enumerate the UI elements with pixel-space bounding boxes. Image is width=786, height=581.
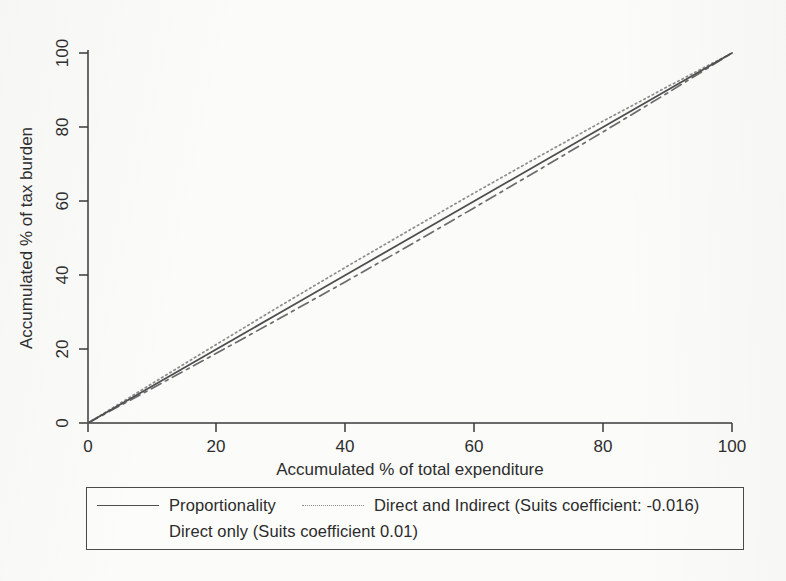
legend-entry-direct-and-indirect: Direct and Indirect (Suits coefficient: … [302, 496, 699, 515]
y-tick-label-60: 60 [53, 192, 72, 211]
y-tick-label-0: 0 [53, 418, 72, 427]
dotted-line-swatch-icon [302, 498, 364, 512]
x-tick-label-60: 60 [465, 437, 484, 456]
x-tick-label-80: 80 [594, 437, 613, 456]
dash-dot-line-swatch-icon [97, 524, 159, 538]
y-tick-label-40: 40 [53, 266, 72, 285]
x-tick-label-0: 0 [83, 437, 92, 456]
chart-legend: Proportionality Direct and Indirect (Sui… [86, 487, 744, 550]
x-tick-label-40: 40 [336, 437, 355, 456]
x-axis-title: Accumulated % of total expenditure [276, 460, 543, 479]
y-tick-label-100: 100 [53, 39, 72, 67]
y-axis-ticks [79, 53, 88, 423]
legend-entry-direct-only: Direct only (Suits coefficient 0.01) [97, 522, 418, 541]
chart-figure: 100 80 60 40 20 0 Accumulated % of tax b… [0, 0, 786, 581]
legend-label-direct-only: Direct only (Suits coefficient 0.01) [169, 522, 418, 541]
y-axis-title: Accumulated % of tax burden [17, 127, 36, 349]
x-tick-label-20: 20 [207, 437, 226, 456]
y-tick-label-20: 20 [53, 340, 72, 359]
x-axis-ticks [88, 423, 732, 432]
x-tick-label-100: 100 [718, 437, 746, 456]
solid-line-swatch-icon [97, 498, 159, 512]
series-proportionality [88, 53, 732, 423]
legend-label-direct-and-indirect: Direct and Indirect (Suits coefficient: … [374, 496, 699, 515]
legend-row-2: Direct only (Suits coefficient 0.01) [97, 518, 418, 544]
legend-entry-proportionality: Proportionality [97, 496, 276, 515]
legend-label-proportionality: Proportionality [169, 496, 276, 515]
legend-row-1: Proportionality Direct and Indirect (Sui… [97, 492, 699, 518]
y-tick-label-80: 80 [53, 118, 72, 137]
series-group [88, 53, 732, 423]
